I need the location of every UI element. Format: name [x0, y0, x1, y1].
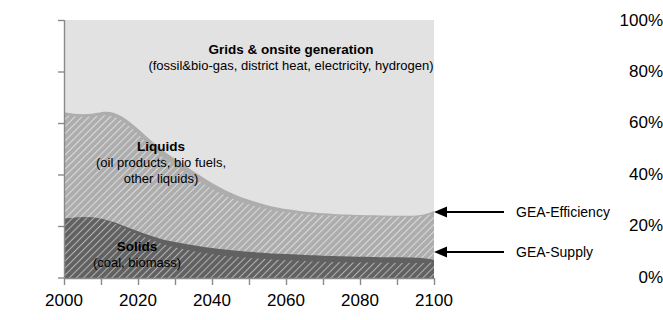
band-label-solids-title: Solids [62, 239, 212, 255]
band-label-liquids-subtitle-line1: (oil products, bio fuels, [66, 155, 256, 171]
annotation-arrow-gea-efficiency [434, 207, 504, 218]
annotation-label-gea-supply: GEA-Supply [516, 245, 593, 259]
chart-figure: 100% 80% 60% 40% 20% 0% 2000 2020 2040 2… [0, 0, 663, 320]
band-label-liquids-subtitle-line2: other liquids) [66, 171, 256, 187]
band-label-grids-onsite-subtitle: (fossil&bio-gas, district heat, electric… [86, 58, 496, 74]
annotation-arrow-gea-supply [434, 247, 504, 258]
band-label-liquids: Liquids (oil products, bio fuels, other … [66, 139, 256, 187]
band-label-grids-onsite: Grids & onsite generation (fossil&bio-ga… [86, 42, 496, 74]
band-label-solids-subtitle: (coal, biomass) [62, 255, 212, 271]
band-label-grids-onsite-title: Grids & onsite generation [86, 42, 496, 58]
band-label-liquids-title: Liquids [66, 139, 256, 155]
annotation-label-gea-efficiency: GEA-Efficiency [516, 205, 610, 219]
band-label-solids: Solids (coal, biomass) [62, 239, 212, 271]
